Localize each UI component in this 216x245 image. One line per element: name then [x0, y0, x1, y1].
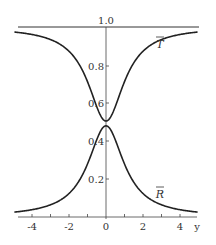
y-ticks: [106, 66, 109, 179]
y-tick-label-1.0: 1.0: [98, 15, 114, 26]
x-tick-label-4: 4: [177, 221, 183, 232]
chart-plot: 1.0 0.8 0.6 0.4 0.2 -4 -2 0 2 4 y T R: [0, 0, 216, 245]
x-tick-label-0: 0: [103, 221, 109, 232]
svg-text:R: R: [155, 188, 164, 201]
x-tick-label-2: 2: [140, 221, 146, 232]
y-tick-label-0.2: 0.2: [88, 174, 104, 185]
curve-label-R: R: [155, 187, 164, 201]
x-axis-label: y: [193, 221, 200, 232]
x-tick-label-m4: -4: [27, 221, 37, 232]
svg-text:T: T: [156, 38, 165, 51]
y-tick-label-0.8: 0.8: [88, 61, 104, 72]
x-tick-label-m2: -2: [64, 221, 74, 232]
